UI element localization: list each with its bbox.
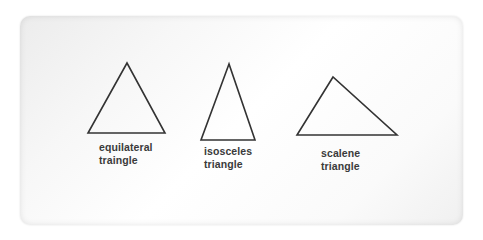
isosceles-label-line2: triangle xyxy=(204,158,252,171)
scalene-label-line1: scalene xyxy=(321,147,360,160)
equilateral-label: equilateral traingle xyxy=(99,141,153,167)
triangles-canvas xyxy=(0,0,483,240)
scalene-label: scalene triangle xyxy=(321,147,360,173)
scalene-label-line2: triangle xyxy=(321,160,360,173)
equilateral-triangle xyxy=(88,63,165,133)
equilateral-label-line1: equilateral xyxy=(99,141,153,154)
isosceles-triangle xyxy=(201,64,255,140)
equilateral-label-line2: traingle xyxy=(99,154,153,167)
isosceles-label-line1: isosceles xyxy=(204,145,252,158)
scalene-triangle xyxy=(297,77,397,135)
isosceles-label: isosceles triangle xyxy=(204,145,252,171)
